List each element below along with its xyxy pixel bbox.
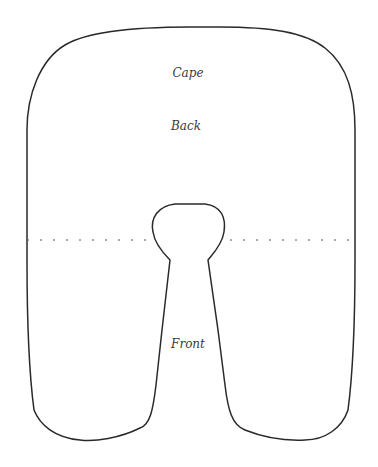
- front-label: Front: [171, 337, 205, 351]
- cape-label: Cape: [172, 66, 203, 80]
- back-label: Back: [171, 119, 201, 133]
- cape-outline: [27, 27, 355, 441]
